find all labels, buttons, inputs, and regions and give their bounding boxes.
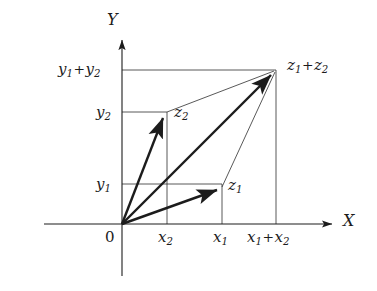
y-tick-label-y1-plus-y2: y1+y2 <box>58 62 101 79</box>
vector-label-z2: z2 <box>174 105 188 122</box>
diagram-canvas <box>0 0 377 291</box>
y-tick-label-y2: y2 <box>96 105 111 122</box>
vector-z1-plus-z2 <box>122 75 271 224</box>
y-tick-label-y1: y1 <box>96 177 111 194</box>
vector-z2 <box>122 118 163 224</box>
x-tick-label-x1-plus-x2: x1+x2 <box>247 230 289 247</box>
vectors <box>122 75 271 224</box>
x-tick-label-x2: x2 <box>158 230 173 247</box>
vector-addition-figure: Y X 0 x2 x1 x1+x2 y1 y2 y1+y2 z1 z2 z1+z… <box>0 0 377 291</box>
vector-label-z1: z1 <box>228 178 242 195</box>
origin-label: 0 <box>105 230 115 245</box>
y-axis-label: Y <box>107 12 118 28</box>
parallelogram-edge-lower <box>222 72 275 187</box>
x-axis-label: X <box>343 213 354 229</box>
vector-z1 <box>122 190 217 224</box>
x-tick-label-x1: x1 <box>213 230 228 247</box>
vector-label-z1-plus-z2: z1+z2 <box>287 58 328 75</box>
